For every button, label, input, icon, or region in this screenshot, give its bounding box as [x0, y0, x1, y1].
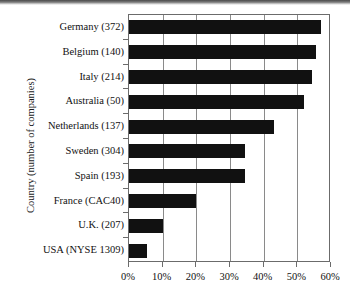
y-axis-tick-label: U.K. (207)	[14, 219, 124, 230]
y-axis-tick-label: Belgium (140)	[14, 46, 124, 57]
y-axis-tick-labels: Germany (372)Belgium (140)Italy (214)Aus…	[14, 14, 124, 262]
x-axis-tick	[162, 262, 163, 267]
y-axis-tick	[123, 212, 128, 213]
y-axis-tick	[123, 188, 128, 189]
y-axis-tick	[123, 113, 128, 114]
x-axis-tick	[330, 262, 331, 267]
y-axis-tick-label: Italy (214)	[14, 71, 124, 82]
bar	[129, 194, 196, 208]
plot-area	[128, 14, 330, 262]
bar	[129, 20, 321, 34]
y-axis-tick-label: Spain (193)	[14, 170, 124, 181]
y-axis-tick	[123, 163, 128, 164]
y-axis-tick	[123, 64, 128, 65]
y-axis-tick-label: France (CAC40)	[14, 195, 124, 206]
bar	[129, 169, 245, 183]
bar-chart-figure: Country (number of companies) Germany (3…	[0, 0, 350, 308]
x-axis-tick-label: 60%	[310, 271, 350, 282]
bar	[129, 95, 304, 109]
x-axis-tick	[296, 262, 297, 267]
y-axis-tick	[123, 39, 128, 40]
y-axis-tick	[123, 88, 128, 89]
y-axis-tick-label: Sweden (304)	[14, 145, 124, 156]
y-axis-tick-label: Australia (50)	[14, 95, 124, 106]
bar	[129, 144, 245, 158]
x-axis-tick	[195, 262, 196, 267]
x-axis-tick	[229, 262, 230, 267]
bar	[129, 70, 312, 84]
y-axis-tick-label: Netherlands (137)	[14, 120, 124, 131]
x-axis-tick	[263, 262, 264, 267]
bar	[129, 45, 316, 59]
bar	[129, 244, 147, 258]
scan-artifact-band	[0, 0, 350, 5]
bar	[129, 120, 274, 134]
y-axis-tick	[123, 138, 128, 139]
bar	[129, 219, 163, 233]
x-axis-tick	[128, 262, 129, 267]
y-axis-tick-label: USA (NYSE 1309)	[14, 244, 124, 255]
y-axis-tick	[123, 237, 128, 238]
y-axis-tick-label: Germany (372)	[14, 21, 124, 32]
